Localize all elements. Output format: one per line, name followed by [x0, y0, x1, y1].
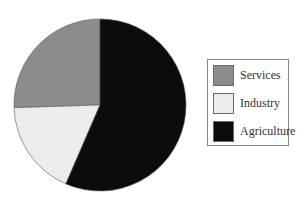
- legend-item-industry: Industry: [213, 93, 280, 114]
- legend-item-services: Services: [213, 65, 281, 86]
- legend-label-services: Services: [240, 68, 281, 83]
- legend: Services Industry Agriculture: [207, 59, 289, 146]
- legend-swatch-agriculture: [213, 121, 234, 142]
- pie-slice-services: [14, 19, 100, 108]
- legend-label-agriculture: Agriculture: [240, 124, 295, 139]
- legend-swatch-industry: [213, 93, 234, 114]
- legend-swatch-services: [213, 65, 234, 86]
- pie-chart: [0, 0, 200, 200]
- legend-item-agriculture: Agriculture: [213, 121, 295, 142]
- legend-label-industry: Industry: [240, 96, 280, 111]
